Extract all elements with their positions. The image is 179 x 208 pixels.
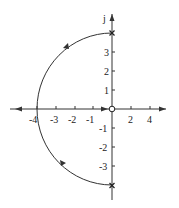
imag-axis-arrow-icon [110,14,115,21]
arc-arrow-lower-icon [60,160,66,166]
real-axis-arrow-icon [159,107,166,112]
y-tick-label: -2 [99,142,107,153]
zero-marker-icon [109,106,115,112]
real-locus-arrow-right-icon [101,107,108,112]
arc-arrow-upper-icon [63,43,69,49]
y-tick-label: -3 [99,161,107,172]
root-locus-diagram: j -4 -3 -2 -1 2 4 3 2 1 -1 -2 -3 [0,0,179,208]
y-tick-label: -1 [99,123,107,134]
x-tick-label: -2 [68,114,76,125]
x-tick-label: -3 [50,114,58,125]
x-tick-label: -1 [86,114,94,125]
y-tick-label: 1 [104,85,109,96]
real-locus-arrow-left-icon [15,107,22,112]
x-tick-label: 2 [128,114,133,125]
y-tick-label: 3 [104,47,109,58]
imag-axis-label: j [102,13,106,24]
y-tick-label: 2 [104,66,109,77]
x-tick-label: 4 [147,114,152,125]
x-tick-label: -4 [29,114,37,125]
